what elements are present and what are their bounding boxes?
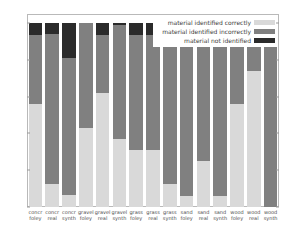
legend-swatch [254, 38, 275, 43]
bar-segment [230, 104, 243, 207]
bar-group [180, 23, 193, 207]
y-axis: 020406080100 [0, 0, 27, 242]
legend-swatch [254, 29, 275, 34]
legend-item[interactable]: material identified incorrectly [153, 27, 275, 35]
y-tick-mark-right [276, 133, 279, 134]
bar-segment [129, 150, 142, 207]
bar-segment [62, 58, 75, 195]
bar-segment [146, 150, 159, 207]
legend-swatch [254, 20, 275, 25]
bar-group [163, 23, 176, 207]
bar-segment [62, 195, 75, 207]
bar-segment [213, 196, 226, 207]
bar-group [62, 23, 75, 207]
legend-label: material identified incorrectly [162, 28, 251, 35]
bar-segment [45, 23, 58, 34]
y-tick-mark [27, 170, 30, 171]
bar-segment [180, 196, 193, 207]
bar-group [197, 23, 210, 207]
bar-segment [96, 35, 109, 93]
y-tick-mark-right [276, 23, 279, 24]
y-tick-mark-right [276, 170, 279, 171]
y-tick-mark-right [276, 59, 279, 60]
bar-segment [180, 30, 193, 196]
bar-segment [213, 23, 226, 196]
bar-group [146, 23, 159, 207]
bar-group [29, 23, 42, 207]
y-tick-mark [27, 23, 30, 24]
bar-segment [29, 104, 42, 207]
bar-group [96, 23, 109, 207]
bar-group [213, 23, 226, 207]
stacked-bar-chart-figure: 020406080100 concrfoleyconcrrealconcrsyn… [0, 0, 288, 242]
bar-group [113, 23, 126, 207]
bar-segment [79, 23, 92, 128]
legend-item[interactable]: material not identified [153, 36, 275, 44]
bar-segment [129, 23, 142, 35]
y-tick-mark-right [276, 207, 279, 208]
y-tick-mark [27, 59, 30, 60]
legend-item[interactable]: material identified correctly [153, 18, 275, 26]
bar-segment [62, 23, 75, 58]
legend-label: material identified correctly [168, 19, 251, 26]
bar-segment [79, 128, 92, 207]
chart-legend: material identified correctlymaterial id… [153, 16, 277, 47]
bar-segment [247, 71, 260, 207]
y-tick-mark [27, 96, 30, 97]
bar-segment [113, 25, 126, 139]
x-tick-label: woodsynth [261, 209, 281, 222]
bar-segment [163, 184, 176, 207]
bar-group [264, 23, 277, 207]
legend-label: material not identified [184, 37, 251, 44]
bar-group [247, 23, 260, 207]
y-tick-mark [27, 133, 30, 134]
bar-segment [45, 34, 58, 184]
bar-segment [96, 93, 109, 207]
bar-segment [163, 35, 176, 184]
bar-segment [197, 161, 210, 207]
bar-segment [129, 35, 142, 150]
x-axis-labels: concrfoleyconcrrealconcrsynthgravelfoley… [27, 209, 279, 239]
bar-group [79, 23, 92, 207]
bar-segment [29, 35, 42, 104]
bar-segment [113, 139, 126, 207]
bar-segment [146, 35, 159, 150]
bar-group [129, 23, 142, 207]
bar-segment [96, 23, 109, 35]
y-tick-mark-right [276, 96, 279, 97]
bar-group [230, 23, 243, 207]
bar-group [45, 23, 58, 207]
y-tick-mark [27, 207, 30, 208]
bar-segment [45, 184, 58, 207]
bar-segment [29, 23, 42, 35]
bar-segment [264, 47, 277, 207]
x-tick-label-line: synth [261, 215, 281, 221]
